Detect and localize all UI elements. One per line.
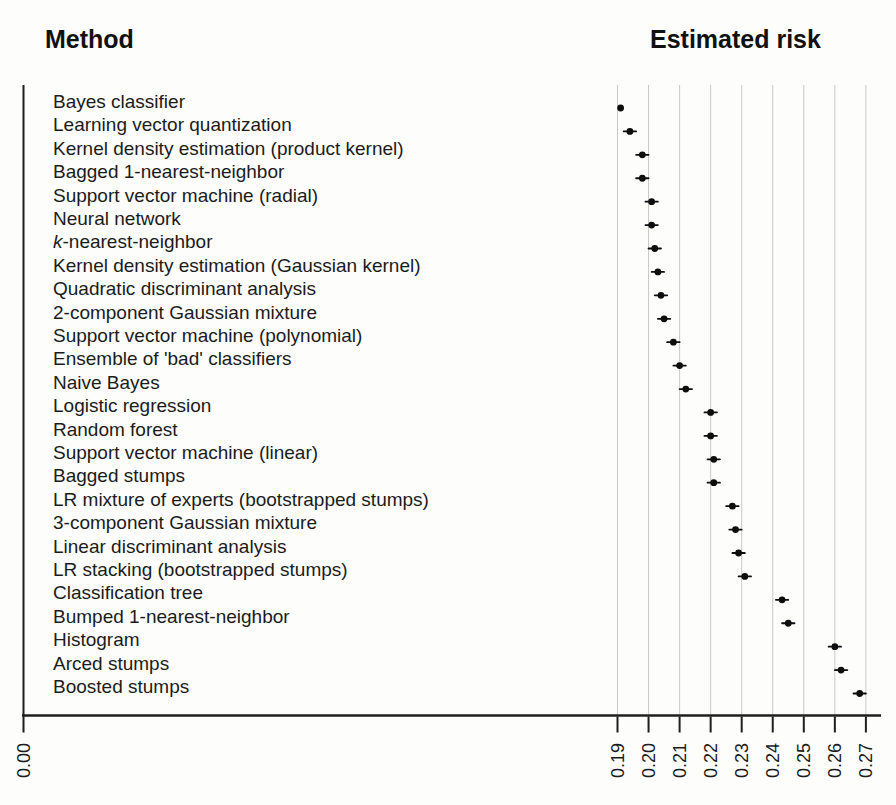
data-point-dot	[651, 245, 658, 252]
x-tick-label: 0.22	[702, 743, 720, 778]
x-tick-label: 0.00	[15, 743, 33, 778]
method-label: Arced stumps	[53, 652, 429, 675]
x-tick-label: 0.24	[764, 743, 782, 778]
data-point-dot	[648, 222, 655, 229]
method-label: Bagged 1-nearest-neighbor	[53, 160, 429, 183]
x-tick-label: 0.23	[733, 743, 751, 778]
method-label: Random forest	[53, 418, 429, 441]
data-point-dot	[617, 105, 624, 112]
method-label: Logistic regression	[53, 394, 429, 417]
method-label: Quadratic discriminant analysis	[53, 277, 429, 300]
method-label: Support vector machine (radial)	[53, 184, 429, 207]
method-label: Support vector machine (polynomial)	[53, 324, 429, 347]
data-point-dot	[627, 128, 634, 135]
data-point-dot	[710, 479, 717, 486]
method-label: LR mixture of experts (bootstrapped stum…	[53, 488, 429, 511]
method-label: LR stacking (bootstrapped stumps)	[53, 558, 429, 581]
x-tick-label: 0.21	[671, 743, 689, 778]
method-label: 2-component Gaussian mixture	[53, 301, 429, 324]
method-label: Bagged stumps	[53, 464, 429, 487]
method-label: Learning vector quantization	[53, 113, 429, 136]
method-label: Kernel density estimation (Gaussian kern…	[53, 254, 429, 277]
x-tick-label: 0.25	[795, 743, 813, 778]
data-point-dot	[785, 620, 792, 627]
method-label: Neural network	[53, 207, 429, 230]
data-point-dot	[710, 456, 717, 463]
method-label: Naive Bayes	[53, 371, 429, 394]
data-point-dot	[732, 526, 739, 533]
data-point-dot	[838, 667, 845, 674]
data-point-dot	[670, 339, 677, 346]
data-point-dot	[729, 503, 736, 510]
data-point-dot	[707, 432, 714, 439]
data-point-dot	[658, 292, 665, 299]
method-label: Linear discriminant analysis	[53, 535, 429, 558]
x-tick-label: 0.27	[857, 743, 875, 778]
data-point-dot	[682, 386, 689, 393]
method-label: 3-component Gaussian mixture	[53, 511, 429, 534]
data-point-dot	[707, 409, 714, 416]
data-point-dot	[741, 573, 748, 580]
data-point-dot	[676, 362, 683, 369]
method-label: k-nearest-neighbor	[53, 230, 429, 253]
method-label: Bumped 1-nearest-neighbor	[53, 605, 429, 628]
data-point-dot	[831, 643, 838, 650]
x-tick-label: 0.20	[640, 743, 658, 778]
data-point-dot	[639, 175, 646, 182]
data-point-dot	[856, 690, 863, 697]
data-point-dot	[661, 315, 668, 322]
data-point-dot	[654, 269, 661, 276]
method-label: Boosted stumps	[53, 675, 429, 698]
data-point-dot	[648, 198, 655, 205]
data-point-dot	[779, 596, 786, 603]
method-label: Bayes classifier	[53, 90, 429, 113]
x-tick-label: 0.26	[826, 743, 844, 778]
data-point-dot	[639, 151, 646, 158]
method-label: Kernel density estimation (product kerne…	[53, 137, 429, 160]
method-label: Support vector machine (linear)	[53, 441, 429, 464]
data-point-dot	[735, 550, 742, 557]
method-labels-column: Bayes classifierLearning vector quantiza…	[53, 90, 429, 699]
dot-plot-figure: Method Estimated risk Bayes classifierLe…	[0, 0, 896, 805]
method-label: Classification tree	[53, 581, 429, 604]
method-label: Ensemble of 'bad' classifiers	[53, 347, 429, 370]
x-tick-label: 0.19	[609, 743, 627, 778]
method-label: Histogram	[53, 628, 429, 651]
